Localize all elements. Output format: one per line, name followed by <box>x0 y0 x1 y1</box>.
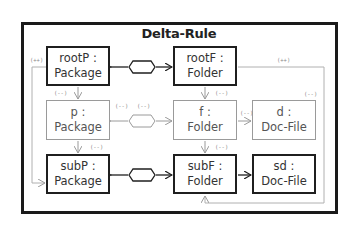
node-label-name: rootP : <box>59 51 97 66</box>
node-rootP[interactable]: rootP : Package <box>46 46 110 86</box>
node-label-type: Folder <box>187 120 223 135</box>
node-label-name: d : <box>277 105 292 120</box>
annotation-rootP-to-p: (--) <box>54 90 67 96</box>
node-subP[interactable]: subP : Package <box>46 154 110 194</box>
annotation-p-to-subP: (--) <box>90 144 103 150</box>
node-label-name: f : <box>199 105 211 120</box>
annotation-rootF-right: (++) <box>277 57 290 63</box>
node-d[interactable]: d : Doc-File <box>252 100 316 140</box>
hexagon-correspondence-icon <box>129 115 155 127</box>
node-label-name: sd : <box>274 159 295 174</box>
node-rootF[interactable]: rootF : Folder <box>173 46 237 86</box>
link-subP-subF <box>111 169 172 181</box>
node-label-type: Doc-File <box>261 174 307 189</box>
annotation-p-hex: (--) <box>137 103 150 109</box>
node-label-name: p : <box>71 105 86 120</box>
node-sd[interactable]: sd : Doc-File <box>252 154 316 194</box>
node-label-name: subP : <box>60 159 95 174</box>
annotation-rootF-to-f: (--) <box>215 90 228 96</box>
node-label-name: rootF : <box>186 51 223 66</box>
node-subF[interactable]: subF : Folder <box>173 154 237 194</box>
node-p[interactable]: p : Package <box>46 100 110 140</box>
annotation-d-top: (--) <box>304 91 317 97</box>
hexagon-correspondence-icon <box>129 169 155 181</box>
node-f[interactable]: f : Folder <box>173 100 237 140</box>
annotation-f-to-d: (--) <box>240 110 253 116</box>
node-label-type: Package <box>54 120 102 135</box>
node-label-type: Folder <box>187 174 223 189</box>
node-label-type: Package <box>54 174 102 189</box>
link-rootP-subP-loop <box>32 67 46 183</box>
node-label-type: Package <box>54 66 102 81</box>
hexagon-correspondence-icon <box>129 61 155 73</box>
annotation-f-to-subF: (--) <box>215 144 228 150</box>
annotation-rootP-left: (++) <box>30 57 43 63</box>
node-label-type: Folder <box>187 66 223 81</box>
link-p-f <box>111 115 172 127</box>
annotation-p-right: (--) <box>115 103 128 109</box>
link-rootP-rootF <box>111 61 172 73</box>
node-label-type: Doc-File <box>261 120 307 135</box>
node-label-name: subF : <box>188 159 223 174</box>
